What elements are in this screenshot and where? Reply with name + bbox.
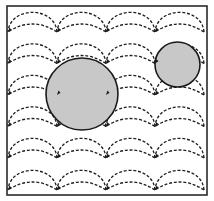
lower-trajectory-arc <box>106 182 155 190</box>
small-obstacle <box>155 42 200 87</box>
lower-trajectory-arc <box>8 24 57 32</box>
upper-trajectory-arc <box>57 170 106 190</box>
upper-trajectory-arc <box>155 138 204 158</box>
lower-trajectory-arc <box>57 150 106 158</box>
lower-trajectory-arc <box>57 24 106 32</box>
lower-trajectory-arc <box>155 182 204 190</box>
upper-trajectory-arc <box>106 44 155 64</box>
upper-trajectory-arc <box>106 138 155 158</box>
lower-trajectory-arc <box>8 150 57 158</box>
lower-trajectory-arc <box>106 119 155 127</box>
upper-trajectory-arc <box>8 170 57 190</box>
upper-trajectory-arc <box>155 107 204 127</box>
upper-trajectory-arc <box>155 12 204 32</box>
lower-trajectory-arc <box>106 24 155 32</box>
lower-trajectory-arc <box>8 56 57 64</box>
lower-trajectory-arc <box>155 24 204 32</box>
upper-trajectory-arc <box>8 12 57 32</box>
diagram-canvas <box>0 0 214 201</box>
lower-trajectory-arc <box>106 150 155 158</box>
upper-trajectory-arc <box>106 12 155 32</box>
upper-trajectory-arc <box>57 12 106 32</box>
upper-trajectory-arc <box>8 138 57 158</box>
upper-trajectory-arc <box>57 138 106 158</box>
lower-trajectory-arc <box>8 119 57 127</box>
upper-trajectory-arc <box>155 170 204 190</box>
upper-trajectory-arc <box>106 170 155 190</box>
lower-trajectory-arc <box>155 119 204 127</box>
lower-trajectory-arc <box>155 150 204 158</box>
upper-trajectory-arc <box>8 44 57 64</box>
lower-trajectory-arc <box>155 87 204 95</box>
lower-trajectory-arc <box>106 56 155 64</box>
lower-trajectory-arc <box>8 182 57 190</box>
lower-trajectory-arc <box>57 182 106 190</box>
obstacles <box>46 42 200 130</box>
